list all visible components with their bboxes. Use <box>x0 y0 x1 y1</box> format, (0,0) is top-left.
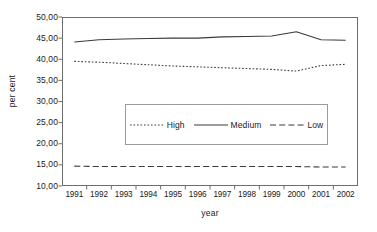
line-chart: per cent 50,0045,0040,0035,0030,0025,002… <box>0 0 377 232</box>
series-line-high <box>74 61 345 71</box>
series-line-medium <box>74 32 345 42</box>
plot-frame <box>63 18 358 186</box>
x-axis-tick-label: 2002 <box>332 190 360 200</box>
x-axis-title: year <box>62 208 358 218</box>
legend-box <box>125 104 328 145</box>
series-line-low <box>74 166 345 167</box>
x-axis-tick-labels: 1991199219931994199519961997199819992000… <box>62 190 358 204</box>
